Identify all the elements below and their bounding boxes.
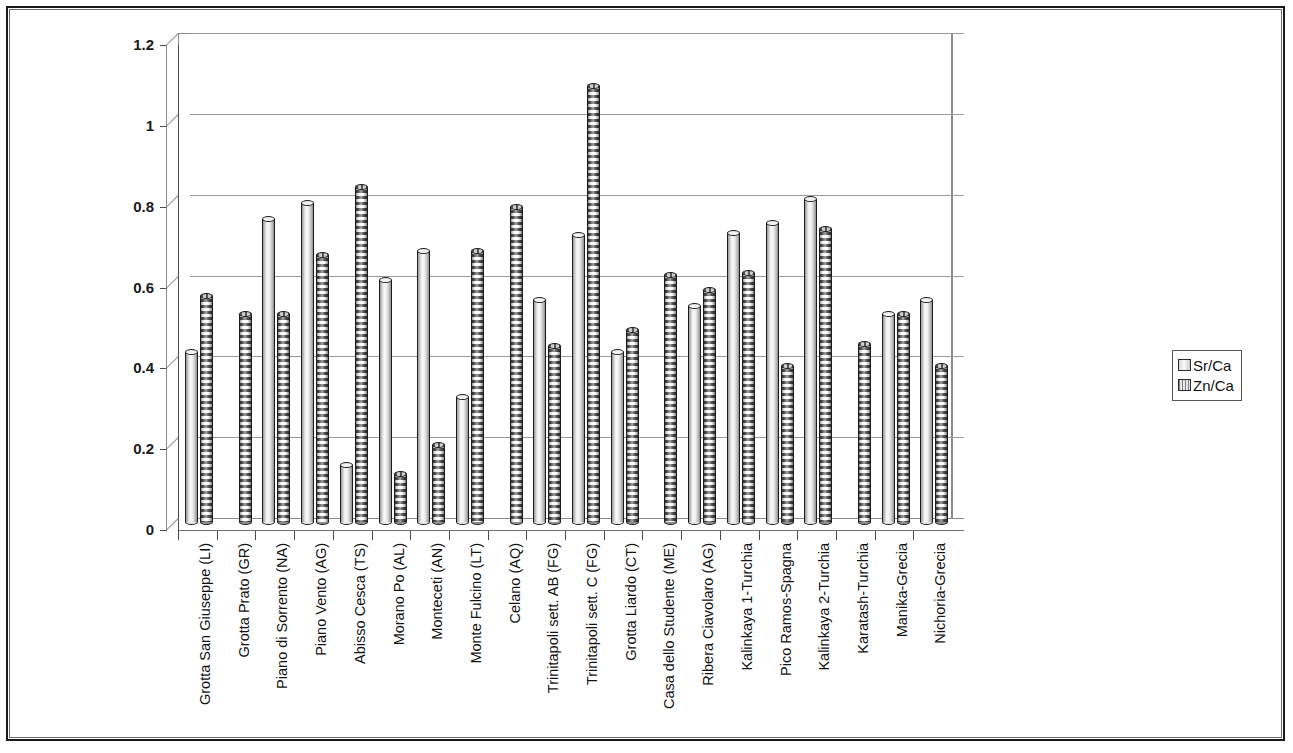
x-axis-tick bbox=[681, 531, 682, 540]
bar-zn-ca bbox=[897, 314, 910, 522]
bar-body bbox=[920, 300, 933, 522]
bar-top-ellipse bbox=[626, 327, 639, 333]
bar-zn-ca bbox=[742, 273, 755, 522]
y-axis-label: 0.4 bbox=[112, 360, 154, 375]
x-axis-label: Grotta Prato (GR) bbox=[237, 543, 252, 657]
bar-zn-ca bbox=[471, 251, 484, 522]
bar-top-ellipse bbox=[587, 83, 600, 89]
y-axis-label: 0.8 bbox=[112, 199, 154, 214]
bar-body bbox=[572, 235, 585, 522]
bar-body bbox=[935, 366, 948, 522]
chart-page: 00.20.40.60.811.2 Grotta San Giuseppe (L… bbox=[0, 0, 1293, 753]
bar-body bbox=[471, 251, 484, 522]
legend-item-zn-ca[interactable]: Zn/Ca bbox=[1178, 375, 1234, 395]
x-axis-tick bbox=[372, 531, 373, 540]
bar-body bbox=[510, 207, 523, 522]
gridline bbox=[190, 195, 964, 196]
x-axis-tick bbox=[565, 531, 566, 540]
x-axis-tick bbox=[797, 531, 798, 540]
bar-zn-ca bbox=[277, 314, 290, 522]
x-axis-tick bbox=[836, 531, 837, 540]
bar-sr-ca bbox=[456, 397, 469, 522]
x-axis-label: Grotta Liardo (CT) bbox=[624, 543, 639, 661]
bar-top-ellipse bbox=[882, 311, 895, 317]
bar-top-ellipse bbox=[688, 303, 701, 309]
bar-top-ellipse bbox=[239, 311, 252, 317]
bar-body bbox=[703, 290, 716, 522]
x-axis-label: Pico Ramos-Spagna bbox=[779, 543, 794, 676]
bar-body bbox=[533, 300, 546, 522]
bar-zn-ca bbox=[355, 187, 368, 522]
bar-sr-ca bbox=[920, 300, 933, 522]
bar-body bbox=[727, 233, 740, 522]
chart-side-wall bbox=[166, 45, 178, 530]
legend-item-sr-ca[interactable]: Sr/Ca bbox=[1178, 355, 1234, 375]
x-axis-label: Morano Po (AL) bbox=[392, 543, 407, 645]
bar-zn-ca bbox=[432, 445, 445, 522]
bar-sr-ca bbox=[766, 223, 779, 522]
bar-top-ellipse bbox=[533, 297, 546, 303]
bar-top-ellipse bbox=[920, 297, 933, 303]
bar-zn-ca bbox=[200, 296, 213, 522]
x-axis-label: Kalinkaya 1-Turchia bbox=[740, 543, 755, 671]
x-axis-tick bbox=[759, 531, 760, 540]
bar-top-ellipse bbox=[394, 471, 407, 477]
bar-zn-ca bbox=[664, 275, 677, 522]
bar-body bbox=[819, 229, 832, 522]
bar-zn-ca bbox=[935, 366, 948, 522]
bar-zn-ca bbox=[703, 290, 716, 522]
x-axis-label: Grotta San Giuseppe (LI) bbox=[198, 543, 213, 705]
gridline bbox=[190, 114, 964, 115]
bar-sr-ca bbox=[804, 199, 817, 522]
bar-zn-ca bbox=[394, 474, 407, 523]
bar-body bbox=[262, 219, 275, 522]
bar-body bbox=[316, 255, 329, 522]
x-axis-tick bbox=[913, 531, 914, 540]
bar-body bbox=[897, 314, 910, 522]
bar-body bbox=[548, 346, 561, 522]
y-axis-label: 1.2 bbox=[112, 37, 154, 52]
bar-zn-ca bbox=[819, 229, 832, 522]
x-axis-tick bbox=[642, 531, 643, 540]
bar-body bbox=[417, 251, 430, 522]
axis-depth-connector bbox=[166, 33, 179, 46]
y-axis-label: 0.6 bbox=[112, 280, 154, 295]
bar-sr-ca bbox=[727, 233, 740, 522]
bar-zn-ca bbox=[510, 207, 523, 522]
bar-top-ellipse bbox=[510, 204, 523, 210]
x-axis-label: Abisso Cesca (TS) bbox=[353, 543, 368, 664]
x-axis-tick bbox=[178, 531, 179, 540]
value-axis-line bbox=[178, 45, 179, 531]
x-axis-tick bbox=[604, 531, 605, 540]
bar-body bbox=[804, 199, 817, 522]
bar-top-ellipse bbox=[897, 311, 910, 317]
x-axis-tick bbox=[526, 531, 527, 540]
x-axis-label: Casa dello Studente (ME) bbox=[662, 543, 677, 709]
gridline bbox=[190, 33, 964, 34]
bar-sr-ca bbox=[379, 280, 392, 523]
x-axis-tick bbox=[294, 531, 295, 540]
x-axis-tick bbox=[217, 531, 218, 540]
bar-body bbox=[742, 273, 755, 522]
bar-zn-ca bbox=[858, 344, 871, 522]
x-axis-label: Karatash-Turchia bbox=[856, 543, 871, 654]
x-axis-label: Kalinkaya 2-Turchia bbox=[817, 543, 832, 671]
bar-zn-ca bbox=[587, 86, 600, 523]
bar-zn-ca bbox=[239, 314, 252, 522]
x-axis-label: Trinitapoli sett. AB (FG) bbox=[546, 543, 561, 693]
zn-ca-key-icon bbox=[1178, 379, 1191, 391]
bar-sr-ca bbox=[611, 352, 624, 522]
bar-zn-ca bbox=[316, 255, 329, 522]
y-axis-label: 0.2 bbox=[112, 441, 154, 456]
bar-body bbox=[611, 352, 624, 522]
sr-ca-key-icon bbox=[1178, 359, 1191, 371]
bar-top-ellipse bbox=[804, 196, 817, 202]
bar-body bbox=[340, 465, 353, 522]
bar-body bbox=[185, 352, 198, 522]
x-axis-tick bbox=[488, 531, 489, 540]
bar-zn-ca bbox=[548, 346, 561, 522]
bar-chart: 00.20.40.60.811.2 Grotta San Giuseppe (L… bbox=[0, 0, 1293, 753]
x-axis-label: Monte Fulcino (LT) bbox=[469, 543, 484, 664]
bar-sr-ca bbox=[882, 314, 895, 522]
x-axis-label: Ribera Ciavolaro (AG) bbox=[701, 543, 716, 686]
